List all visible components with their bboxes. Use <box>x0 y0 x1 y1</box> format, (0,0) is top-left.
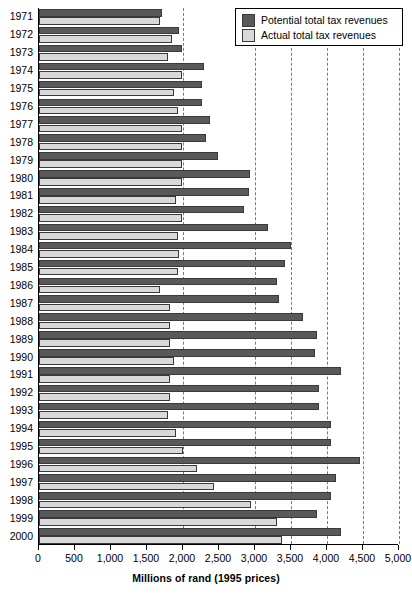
y-tick-label-1978: 1978 <box>10 137 33 148</box>
bar-row <box>39 187 398 205</box>
y-tick-label-1979: 1979 <box>10 155 33 166</box>
bar-potential <box>39 349 315 357</box>
x-tick-2500 <box>218 545 219 550</box>
bar-row <box>39 384 398 402</box>
bar-potential <box>39 188 249 196</box>
bar-row <box>39 312 398 330</box>
y-tick-label-1987: 1987 <box>10 298 33 309</box>
gridline-5000 <box>399 8 400 544</box>
bar-actual <box>39 196 176 204</box>
bar-row <box>39 438 398 456</box>
bar-row <box>39 420 398 438</box>
bar-actual <box>39 71 182 79</box>
bar-actual <box>39 214 182 222</box>
bar-row <box>39 205 398 223</box>
bar-actual <box>39 143 182 151</box>
x-tick-label-2000: 2,000 <box>169 552 195 564</box>
bar-potential <box>39 63 204 71</box>
bar-actual <box>39 17 160 25</box>
bar-actual <box>39 53 168 61</box>
bar-row <box>39 169 398 187</box>
y-tick-label-1994: 1994 <box>10 423 33 434</box>
bar-row <box>39 80 398 98</box>
bar-row <box>39 473 398 491</box>
y-tick-label-1972: 1972 <box>10 29 33 40</box>
bar-row <box>39 294 398 312</box>
x-tick-label-500: 500 <box>65 552 83 564</box>
x-tick-4500 <box>362 545 363 550</box>
y-tick-label-1982: 1982 <box>10 208 33 219</box>
x-tick-label-4000: 4,000 <box>313 552 339 564</box>
y-tick-label-2000: 2000 <box>10 531 33 542</box>
bar-row <box>39 456 398 474</box>
y-tick-label-1988: 1988 <box>10 316 33 327</box>
legend-label-actual: Actual total tax revenues <box>261 30 376 41</box>
x-tick-500 <box>74 545 75 550</box>
bar-actual <box>39 89 174 97</box>
x-tick-label-1500: 1,500 <box>133 552 159 564</box>
bar-potential <box>39 385 319 393</box>
bar-rows <box>39 8 398 544</box>
bar-potential <box>39 224 268 232</box>
x-tick-1000 <box>110 545 111 550</box>
bar-potential <box>39 27 179 35</box>
bar-potential <box>39 116 210 124</box>
y-tick-label-1977: 1977 <box>10 119 33 130</box>
x-tick-4000 <box>326 545 327 550</box>
bar-potential <box>39 242 291 250</box>
bar-actual <box>39 322 170 330</box>
bar-actual <box>39 357 174 365</box>
bar-actual <box>39 232 178 240</box>
plot-area <box>38 8 398 545</box>
legend-item-actual: Actual total tax revenues <box>242 28 402 43</box>
y-tick-label-1981: 1981 <box>10 190 33 201</box>
bar-potential <box>39 278 277 286</box>
y-tick-label-1991: 1991 <box>10 369 33 380</box>
bar-actual <box>39 178 182 186</box>
y-tick-label-1997: 1997 <box>10 477 33 488</box>
bar-actual <box>39 375 170 383</box>
bar-chart: 1971197219731974197519761977197819791980… <box>0 0 412 594</box>
bar-potential <box>39 331 317 339</box>
bar-potential <box>39 45 182 53</box>
x-tick-3000 <box>254 545 255 550</box>
y-axis-labels: 1971197219731974197519761977197819791980… <box>0 8 36 545</box>
y-tick-label-1973: 1973 <box>10 47 33 58</box>
bar-actual <box>39 250 179 258</box>
bar-actual <box>39 107 178 115</box>
bar-row <box>39 330 398 348</box>
y-tick-label-1989: 1989 <box>10 334 33 345</box>
x-tick-label-2500: 2,500 <box>205 552 231 564</box>
legend-swatch-potential-icon <box>242 14 255 27</box>
bar-row <box>39 151 398 169</box>
bar-potential <box>39 295 279 303</box>
x-tick-label-3500: 3,500 <box>277 552 303 564</box>
bar-actual <box>39 483 214 491</box>
bar-actual <box>39 501 251 509</box>
bar-actual <box>39 429 176 437</box>
bar-actual <box>39 268 178 276</box>
y-tick-label-1999: 1999 <box>10 513 33 524</box>
bar-actual <box>39 447 183 455</box>
x-tick-1500 <box>146 545 147 550</box>
bar-potential <box>39 492 331 500</box>
y-tick-label-1986: 1986 <box>10 280 33 291</box>
bar-row <box>39 133 398 151</box>
bar-row <box>39 259 398 277</box>
bar-row <box>39 348 398 366</box>
y-tick-label-1983: 1983 <box>10 226 33 237</box>
bar-potential <box>39 474 336 482</box>
y-tick-label-1971: 1971 <box>10 11 33 22</box>
bar-potential <box>39 152 218 160</box>
y-tick-label-1975: 1975 <box>10 83 33 94</box>
x-tick-3500 <box>290 545 291 550</box>
bar-row <box>39 241 398 259</box>
x-tick-label-0: 0 <box>35 552 41 564</box>
bar-actual <box>39 393 170 401</box>
bar-actual <box>39 339 170 347</box>
legend-item-potential: Potential total tax revenues <box>242 13 402 28</box>
x-tick-2000 <box>182 545 183 550</box>
x-tick-label-3000: 3,000 <box>241 552 267 564</box>
bar-actual <box>39 35 172 43</box>
x-axis-tick-labels: 05001,0001,5002,0002,5003,0003,5004,0004… <box>0 552 412 566</box>
